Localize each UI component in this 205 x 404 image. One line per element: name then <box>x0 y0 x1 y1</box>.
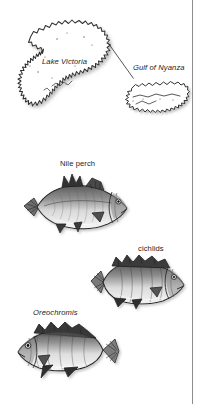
label-oreochromis: Oreochromis <box>33 309 78 317</box>
label-lake-victoria: Lake Victoria <box>42 58 87 66</box>
page-border-rule <box>192 0 193 404</box>
figure-panel: Lake Victoria Gulf of Nyanza Nile perch … <box>0 0 205 404</box>
label-cichlids: cichlids <box>138 245 164 253</box>
label-nile-perch: Nile perch <box>60 160 95 168</box>
oreochromis-illustration <box>0 0 205 404</box>
label-gulf-of-nyanza: Gulf of Nyanza <box>133 64 185 72</box>
